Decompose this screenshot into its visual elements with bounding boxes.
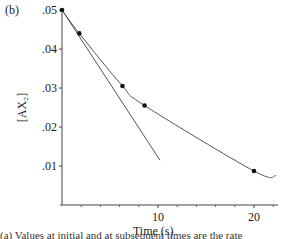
data-point xyxy=(252,169,257,174)
y-tick-label: .03 xyxy=(42,81,57,95)
markers-layer xyxy=(60,8,257,174)
y-tick-label: .02 xyxy=(42,120,57,134)
data-point xyxy=(142,103,147,108)
series-layer xyxy=(62,10,276,178)
data-point xyxy=(120,84,125,89)
y-tick-label: .04 xyxy=(42,42,57,56)
y-tick-label: .01 xyxy=(42,159,57,173)
chart-canvas: .01.02.03.04.051020Time (s)[AX₂] xyxy=(0,0,282,239)
y-tick-label: .05 xyxy=(42,3,57,17)
axes: .01.02.03.04.051020Time (s)[AX₂] xyxy=(15,3,278,238)
y-axis-label: [AX₂] xyxy=(15,93,29,123)
x-tick-label: 20 xyxy=(248,210,260,224)
data-point xyxy=(77,31,82,36)
data-point xyxy=(60,8,65,13)
decay-curve xyxy=(62,10,276,178)
caption-fragment: (a) Values at initial and at subsequent … xyxy=(0,231,282,239)
tangent-line xyxy=(62,10,160,160)
x-tick-label: 10 xyxy=(152,210,164,224)
